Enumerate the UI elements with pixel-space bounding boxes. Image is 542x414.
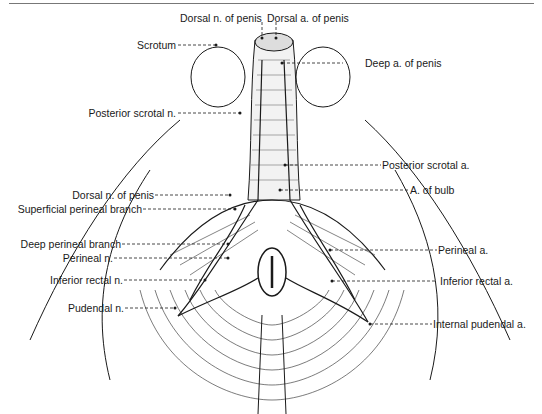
label-perineal-n: Perineal n.	[63, 252, 113, 264]
label-a-of-bulb: A. of bulb	[410, 184, 454, 196]
label-posterior-scrotal-n: Posterior scrotal n.	[88, 107, 176, 119]
label-posterior-scrotal-a: Posterior scrotal a.	[382, 159, 470, 171]
label-inferior-rectal-n: Inferior rectal n.	[50, 274, 123, 286]
label-dorsal-a-of-penis-top: Dorsal a. of penis	[267, 12, 349, 24]
label-pudendal-n: Pudendal n.	[68, 302, 124, 314]
label-superficial-perineal-branch: Superficial perineal branch	[18, 203, 142, 215]
label-perineal-a: Perineal a.	[438, 244, 488, 256]
label-dorsal-n-of-penis: Dorsal n. of penis	[72, 189, 154, 201]
label-internal-pudendal-a: Internal pudendal a.	[433, 318, 526, 330]
scrotum-right	[296, 47, 350, 107]
label-scrotum: Scrotum	[137, 39, 176, 51]
label-deep-a-of-penis: Deep a. of penis	[365, 57, 441, 69]
label-deep-perineal-branch: Deep perineal branch	[21, 238, 121, 250]
scrotum-left	[191, 47, 245, 107]
label-inferior-rectal-a: Inferior rectal a.	[440, 275, 513, 287]
label-dorsal-n-of-penis-top: Dorsal n. of penis	[180, 12, 262, 24]
